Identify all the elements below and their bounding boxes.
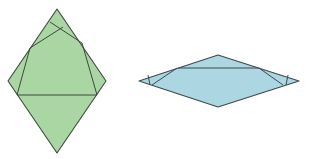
green-rhombus-figure	[8, 9, 106, 153]
blue-folded-rhombus-outline	[139, 55, 299, 107]
diagram-canvas	[0, 0, 309, 159]
blue-rhombus-figure	[139, 55, 299, 107]
